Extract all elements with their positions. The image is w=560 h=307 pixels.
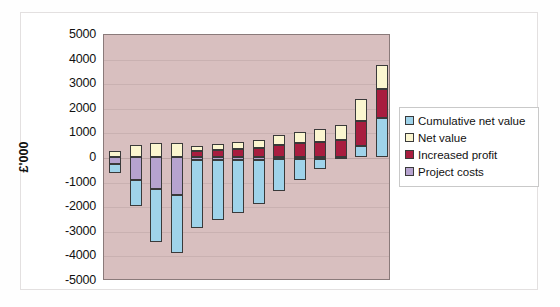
y-axis-labels: 500040003000200010000-1000-2000-3000-400… — [30, 34, 100, 280]
bar-segment — [232, 160, 244, 213]
bar-column[interactable] — [355, 34, 367, 280]
bar-column[interactable] — [191, 34, 203, 280]
bar-segment — [376, 65, 388, 90]
bar-segment — [130, 157, 142, 180]
bar-segment — [109, 151, 121, 157]
y-axis-title: £'000 — [17, 142, 31, 173]
bar-segment — [355, 121, 367, 146]
y-axis-tick-label: 0 — [89, 150, 96, 164]
legend-cumulative-net-value[interactable]: Cumulative net value — [405, 113, 533, 128]
legend-project-costs[interactable]: Project costs — [405, 164, 533, 179]
legend-swatch-icon — [405, 167, 414, 176]
bar-segment — [355, 146, 367, 157]
bar-column[interactable] — [253, 34, 265, 280]
bar-segment — [212, 144, 224, 150]
bar-segment — [109, 164, 121, 173]
bar-column[interactable] — [232, 34, 244, 280]
y-axis-tick-label: -3000 — [65, 224, 96, 238]
bar-segment — [273, 159, 285, 191]
bar-segment — [191, 151, 203, 157]
legend-label: Increased profit — [418, 149, 497, 161]
bar-column[interactable] — [171, 34, 183, 280]
bar-segment — [171, 143, 183, 157]
bar-segment — [294, 143, 306, 157]
bar-segment — [191, 160, 203, 228]
bar-column[interactable] — [273, 34, 285, 280]
bar-segment — [130, 145, 142, 157]
screenshot-root: £'000 500040003000200010000-1000-2000-30… — [0, 0, 560, 307]
y-axis-tick-label: 1000 — [69, 125, 96, 139]
bar-segment — [314, 142, 326, 157]
bar-segment — [212, 160, 224, 220]
legend-swatch-icon — [405, 150, 414, 159]
bar-segment — [109, 157, 121, 164]
bar-segment — [130, 180, 142, 206]
bar-segment — [376, 89, 388, 117]
legend-increased-profit[interactable]: Increased profit — [405, 147, 533, 162]
y-axis-tick-label: -1000 — [65, 175, 96, 189]
bar-segment — [171, 195, 183, 253]
bar-segment — [355, 99, 367, 121]
bar-segment — [273, 145, 285, 157]
bar-segment — [273, 135, 285, 145]
bar-column[interactable] — [130, 34, 142, 280]
bar-segment — [232, 149, 244, 157]
bar-column[interactable] — [314, 34, 326, 280]
bar-segment — [232, 142, 244, 149]
legend-label: Net value — [418, 132, 467, 144]
bar-segment — [253, 160, 265, 204]
bar-segment — [294, 159, 306, 180]
legend-label: Cumulative net value — [418, 115, 525, 127]
y-axis-tick-label: 3000 — [69, 76, 96, 90]
bar-segment — [212, 150, 224, 157]
bar-segment — [335, 140, 347, 157]
bar-segment — [253, 140, 265, 148]
bar-segment — [171, 157, 183, 195]
legend-label: Project costs — [418, 166, 484, 178]
legend-net-value[interactable]: Net value — [405, 130, 533, 145]
bar-segment — [335, 125, 347, 140]
legend-swatch-icon — [405, 116, 414, 125]
bar-segment — [191, 146, 203, 151]
bar-column[interactable] — [212, 34, 224, 280]
bar-column[interactable] — [150, 34, 162, 280]
stacked-column-chart: £'000 500040003000200010000-1000-2000-30… — [0, 0, 560, 307]
bar-segment — [314, 129, 326, 142]
bar-segment — [314, 159, 326, 169]
bar-segment — [150, 189, 162, 242]
legend-swatch-icon — [405, 133, 414, 142]
chart-legend: Cumulative net valueNet valueIncreased p… — [399, 107, 539, 187]
y-axis-tick-label: 5000 — [69, 27, 96, 41]
bar-column[interactable] — [294, 34, 306, 280]
y-axis-tick-label: -4000 — [65, 248, 96, 262]
bar-segment — [294, 132, 306, 144]
bar-segment — [150, 143, 162, 157]
bar-segment — [335, 157, 347, 159]
bar-segment — [253, 148, 265, 157]
bar-column[interactable] — [109, 34, 121, 280]
y-axis-tick-label: -5000 — [65, 273, 96, 287]
bar-segment — [376, 118, 388, 157]
bar-series-container — [103, 34, 390, 280]
y-axis-tick-label: 2000 — [69, 101, 96, 115]
bar-segment — [150, 157, 162, 189]
y-axis-tick-label: -2000 — [65, 199, 96, 213]
y-axis-tick-label: 4000 — [69, 52, 96, 66]
bar-column[interactable] — [335, 34, 347, 280]
bar-column[interactable] — [376, 34, 388, 280]
